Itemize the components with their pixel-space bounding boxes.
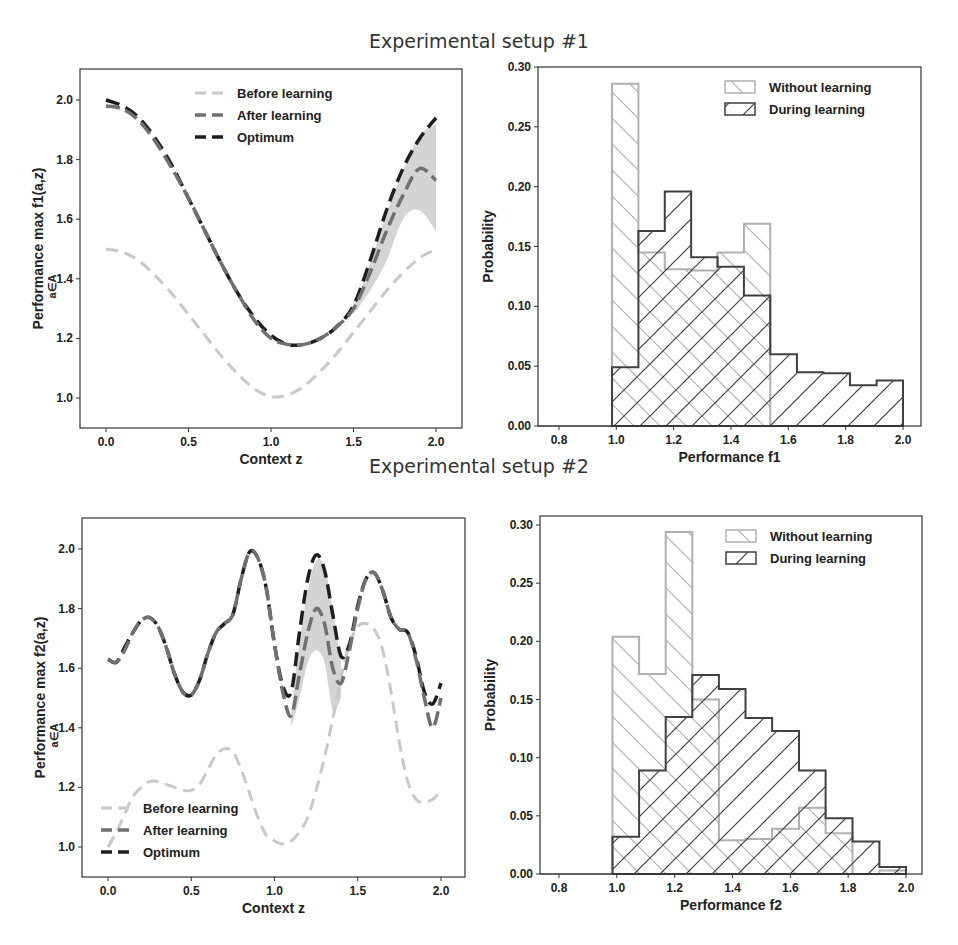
legend-label: Before learning bbox=[237, 86, 332, 101]
x-axis-label: Performance f2 bbox=[680, 897, 782, 913]
x-tick-label: 0.8 bbox=[551, 433, 568, 447]
y-tick-label: 1.4 bbox=[58, 721, 75, 735]
y-tick-label: 1.8 bbox=[56, 153, 73, 167]
x-tick-label: 1.6 bbox=[782, 881, 799, 895]
y-tick-label: 2.0 bbox=[56, 93, 73, 107]
y-axis-label: Probability bbox=[480, 210, 496, 283]
y-tick-label: 0.25 bbox=[510, 576, 534, 590]
y-axis-label: Performance max f1(a,z) bbox=[30, 168, 46, 330]
x-tick-label: 1.2 bbox=[666, 881, 683, 895]
legend-swatch bbox=[726, 530, 756, 542]
y-tick-label: 0.00 bbox=[510, 867, 534, 881]
x-tick-label: 2.0 bbox=[428, 435, 445, 449]
y-tick-label: 1.0 bbox=[56, 391, 73, 405]
x-tick-label: 1.5 bbox=[349, 884, 366, 898]
y-tick-label: 1.6 bbox=[58, 661, 75, 675]
legend-swatch bbox=[725, 103, 755, 115]
y-tick-label: 2.0 bbox=[58, 542, 75, 556]
figure-canvas: 0.00.51.01.52.01.01.21.41.61.82.0Context… bbox=[0, 0, 958, 945]
y-tick-label: 0.30 bbox=[508, 60, 532, 74]
y-axis-label: Probability bbox=[482, 659, 498, 732]
x-axis-label: Context z bbox=[242, 900, 305, 916]
series-before-learning bbox=[106, 249, 436, 397]
legend-label: Without learning bbox=[769, 80, 871, 95]
y-axis-sublabel: a∈A bbox=[48, 723, 60, 747]
y-tick-label: 0.30 bbox=[510, 518, 534, 532]
series-after-learning bbox=[108, 551, 441, 728]
y-tick-label: 1.4 bbox=[56, 272, 73, 286]
y-tick-label: 0.20 bbox=[510, 634, 534, 648]
x-tick-label: 1.4 bbox=[723, 433, 740, 447]
x-tick-label: 2.0 bbox=[433, 884, 450, 898]
x-tick-label: 0.0 bbox=[98, 435, 115, 449]
confidence-band bbox=[354, 124, 437, 315]
y-tick-label: 1.2 bbox=[56, 331, 73, 345]
y-tick-label: 0.05 bbox=[510, 809, 534, 823]
x-tick-label: 1.0 bbox=[266, 884, 283, 898]
y-axis-label: Performance max f2(a,z) bbox=[32, 617, 48, 779]
legend-label: Optimum bbox=[143, 845, 200, 860]
setup1-histogram: 0.81.01.21.41.61.82.00.000.050.100.150.2… bbox=[480, 60, 921, 465]
x-axis-label: Performance f1 bbox=[679, 449, 781, 465]
axes-frame bbox=[82, 518, 465, 877]
x-tick-label: 0.5 bbox=[180, 435, 197, 449]
y-tick-label: 0.10 bbox=[510, 751, 534, 765]
legend-label: During learning bbox=[770, 551, 866, 566]
y-axis-sublabel: a∈A bbox=[46, 274, 58, 298]
y-tick-label: 0.05 bbox=[508, 359, 532, 373]
x-tick-label: 1.4 bbox=[724, 881, 741, 895]
x-tick-label: 2.0 bbox=[898, 881, 915, 895]
legend-label: Without learning bbox=[770, 529, 872, 544]
legend-label: During learning bbox=[769, 102, 865, 117]
x-tick-label: 0.8 bbox=[551, 881, 568, 895]
x-tick-label: 1.6 bbox=[780, 433, 797, 447]
x-tick-label: 0.0 bbox=[100, 884, 117, 898]
y-tick-label: 1.0 bbox=[58, 840, 75, 854]
y-tick-label: 0.10 bbox=[508, 299, 532, 313]
legend-label: After learning bbox=[143, 823, 228, 838]
y-tick-label: 1.8 bbox=[58, 602, 75, 616]
setup2-line-chart: 0.00.51.01.52.01.01.21.41.61.82.0Context… bbox=[32, 518, 465, 916]
y-tick-label: 1.6 bbox=[56, 212, 73, 226]
setup2-histogram: 0.81.01.21.41.61.82.00.000.050.100.150.2… bbox=[482, 516, 922, 913]
legend-swatch bbox=[726, 552, 756, 564]
x-tick-label: 1.8 bbox=[840, 881, 857, 895]
y-tick-label: 0.00 bbox=[508, 419, 532, 433]
legend-label: After learning bbox=[237, 108, 322, 123]
y-tick-label: 0.15 bbox=[508, 240, 532, 254]
x-tick-label: 2.0 bbox=[895, 433, 912, 447]
x-axis-label: Context z bbox=[240, 451, 303, 467]
x-tick-label: 1.0 bbox=[608, 881, 625, 895]
y-tick-label: 1.2 bbox=[58, 780, 75, 794]
legend-label: Optimum bbox=[237, 130, 294, 145]
legend-swatch bbox=[725, 81, 755, 93]
x-tick-label: 1.5 bbox=[345, 435, 362, 449]
legend-label: Before learning bbox=[143, 801, 238, 816]
y-tick-label: 0.15 bbox=[510, 693, 534, 707]
setup1-line-chart: 0.00.51.01.52.01.01.21.41.61.82.0Context… bbox=[30, 69, 462, 467]
y-tick-label: 0.20 bbox=[508, 180, 532, 194]
x-tick-label: 0.5 bbox=[183, 884, 200, 898]
x-tick-label: 1.0 bbox=[263, 435, 280, 449]
y-tick-label: 0.25 bbox=[508, 120, 532, 134]
x-tick-label: 1.8 bbox=[837, 433, 854, 447]
x-tick-label: 1.0 bbox=[608, 433, 625, 447]
x-tick-label: 1.2 bbox=[665, 433, 682, 447]
